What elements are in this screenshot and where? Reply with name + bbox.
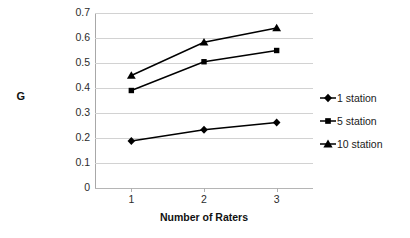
legend-item-10-station[interactable]: 10 station xyxy=(320,132,410,155)
x-axis-tick xyxy=(277,188,278,192)
x-axis-tick xyxy=(131,188,132,192)
square-marker-icon xyxy=(320,115,336,127)
gridline xyxy=(95,38,313,39)
y-axis-tick-label: 0.2 xyxy=(62,132,90,143)
y-axis-title: G xyxy=(10,90,32,102)
legend-item-1-station[interactable]: 1 station xyxy=(320,86,410,109)
gridline xyxy=(95,163,313,164)
y-axis-tick-label: 0.1 xyxy=(62,157,90,168)
y-axis-tick-labels: 0.70.60.50.40.30.20.10 xyxy=(60,0,90,238)
y-axis-tick-label: 0.6 xyxy=(62,32,90,43)
y-axis-tick-label: 0 xyxy=(62,182,90,193)
gridline xyxy=(95,13,313,14)
diamond-marker-icon xyxy=(320,92,336,104)
y-axis-tick-label: 0.4 xyxy=(62,82,90,93)
gridline xyxy=(95,63,313,64)
plot-area xyxy=(95,13,313,188)
gridline xyxy=(95,138,313,139)
legend-item-5-station[interactable]: 5 station xyxy=(320,109,410,132)
legend-label: 5 station xyxy=(337,115,377,127)
x-axis-tick-label: 3 xyxy=(262,193,292,205)
x-axis-tick-label: 1 xyxy=(116,193,146,205)
triangle-marker-icon xyxy=(320,138,336,150)
legend-label: 1 station xyxy=(337,92,377,104)
gridline xyxy=(95,88,313,89)
y-axis-line xyxy=(95,13,96,188)
legend-label: 10 station xyxy=(337,138,383,150)
x-axis-tick xyxy=(204,188,205,192)
y-axis-tick-label: 0.7 xyxy=(62,7,90,18)
y-axis-tick-label: 0.3 xyxy=(62,107,90,118)
x-axis-tick-label: 2 xyxy=(189,193,219,205)
x-axis-title: Number of Raters xyxy=(95,211,313,223)
line-chart: G 0.70.60.50.40.30.20.10 123 Number of R… xyxy=(0,0,410,238)
chart-legend: 1 station5 station10 station xyxy=(320,86,410,155)
y-axis-tick-label: 0.5 xyxy=(62,57,90,68)
gridline xyxy=(95,113,313,114)
